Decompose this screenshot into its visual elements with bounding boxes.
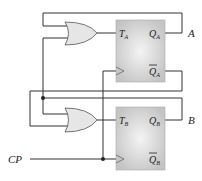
or-gate-a (65, 22, 97, 45)
output-b-label: B (188, 114, 195, 126)
or-gate-b (65, 108, 97, 132)
clock-label: CP (8, 153, 22, 165)
output-a-label: A (187, 27, 195, 39)
circuit-diagram: TA QA QA TB QB QB A B CP (0, 0, 202, 181)
junction-dot (101, 157, 105, 161)
junction-dot (41, 96, 45, 100)
